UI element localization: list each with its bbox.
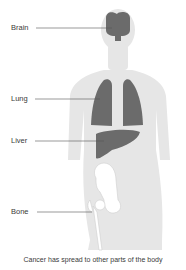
label-lung: Lung — [11, 94, 28, 103]
body-illustration — [0, 0, 186, 270]
label-brain: Brain — [11, 23, 29, 32]
label-bone: Bone — [11, 207, 29, 216]
body-silhouette — [68, 9, 170, 250]
label-liver: Liver — [11, 136, 27, 145]
caption: Cancer has spread to other parts of the … — [0, 256, 186, 263]
